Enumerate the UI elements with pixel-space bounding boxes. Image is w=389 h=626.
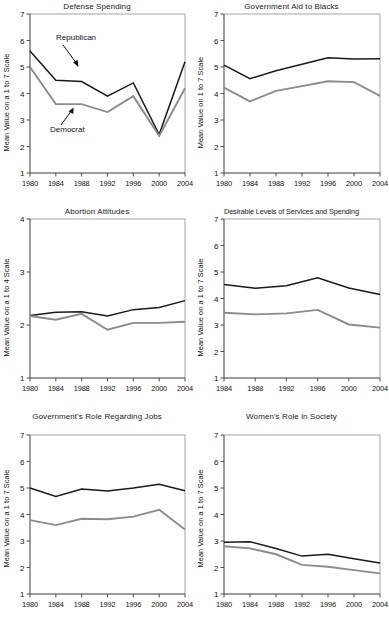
y-tick-label: 2 — [214, 564, 219, 573]
y-tick-label: 4 — [214, 511, 219, 520]
panel-governments-role-regarding-jobs: Government's Role Regarding Jobs Mean Va… — [0, 410, 194, 626]
series-line-republican — [30, 51, 185, 134]
plot-area: 12345671980198419881992199620002004 — [194, 410, 389, 626]
x-tick-label: 1988 — [74, 179, 90, 188]
y-tick-label: 4 — [20, 511, 25, 520]
y-tick-label: 1 — [20, 374, 25, 383]
series-line-democrat — [30, 301, 185, 316]
panel-abortion-attitudes: Abortion Attitudes Mean Value on a 1 to … — [0, 205, 194, 410]
panel-desirable-levels-of-services-and-spending: Desirable Levels of Services and Spendin… — [194, 205, 389, 410]
y-tick-label: 3 — [214, 116, 219, 125]
y-tick-label: 6 — [214, 37, 219, 46]
x-tick-label: 1988 — [268, 600, 284, 609]
plot-frame — [30, 14, 185, 173]
y-tick-label: 5 — [20, 484, 25, 493]
y-tick-label: 4 — [20, 215, 25, 224]
x-tick-label: 1992 — [294, 600, 310, 609]
y-tick-label: 2 — [20, 564, 25, 573]
y-tick-label: 2 — [20, 321, 25, 330]
x-tick-label: 1988 — [247, 384, 263, 393]
y-tick-label: 2 — [20, 143, 25, 152]
x-tick-label: 1988 — [268, 179, 284, 188]
y-tick-label: 7 — [20, 431, 25, 440]
y-tick-label: 2 — [214, 143, 219, 152]
y-tick-label: 7 — [20, 10, 25, 19]
plot-area: 12341980198419881992199620002004 — [0, 205, 194, 410]
y-tick-label: 1 — [214, 374, 219, 383]
x-tick-label: 1992 — [278, 384, 294, 393]
x-tick-label: 1984 — [216, 384, 232, 393]
y-tick-label: 7 — [214, 215, 219, 224]
y-tick-label: 6 — [214, 242, 219, 251]
annotation-democrat-label: Democrat — [50, 125, 85, 134]
y-tick-label: 3 — [20, 537, 25, 546]
y-tick-label: 3 — [214, 321, 219, 330]
y-tick-label: 1 — [214, 169, 219, 178]
y-tick-label: 1 — [214, 590, 219, 599]
y-tick-label: 2 — [214, 348, 219, 357]
x-tick-label: 1992 — [100, 600, 116, 609]
plot-area: 12345671980198419881992199620002004Repub… — [0, 0, 194, 205]
y-tick-label: 4 — [20, 90, 25, 99]
chart-figure: Defense Spending Mean Value on a 1 to 7 … — [0, 0, 389, 626]
x-tick-label: 1996 — [125, 600, 141, 609]
x-tick-label: 2004 — [177, 179, 193, 188]
panel-womens-role-in-society: Women's Role in Society Mean Value on a … — [194, 410, 389, 626]
y-tick-label: 6 — [20, 458, 25, 467]
x-tick-label: 1980 — [216, 179, 232, 188]
x-tick-label: 1988 — [74, 384, 90, 393]
series-line-republican — [224, 310, 380, 328]
plot-frame — [224, 14, 380, 173]
series-line-democrat — [30, 484, 185, 496]
y-tick-label: 5 — [214, 268, 219, 277]
y-tick-label: 1 — [20, 169, 25, 178]
plot-frame — [224, 219, 380, 378]
plot-area: 12345671980198419881992199620002004 — [194, 0, 389, 205]
y-tick-label: 3 — [20, 268, 25, 277]
y-tick-label: 6 — [214, 458, 219, 467]
series-line-republican — [224, 81, 380, 101]
x-tick-label: 2000 — [346, 600, 362, 609]
y-tick-label: 6 — [20, 37, 25, 46]
x-tick-label: 1996 — [125, 179, 141, 188]
annotation-republican-arrowhead — [73, 60, 78, 67]
series-line-democrat — [224, 58, 380, 79]
y-tick-label: 5 — [20, 63, 25, 72]
x-tick-label: 2004 — [177, 384, 193, 393]
x-tick-label: 1996 — [320, 179, 336, 188]
plot-frame — [30, 435, 185, 594]
series-line-republican — [224, 542, 380, 563]
y-tick-label: 5 — [214, 484, 219, 493]
plot-axes — [30, 14, 185, 173]
plot-axes — [224, 219, 380, 378]
x-tick-label: 1980 — [22, 600, 38, 609]
x-tick-label: 1996 — [320, 600, 336, 609]
x-tick-label: 1988 — [74, 600, 90, 609]
annotation-democrat-arrow — [61, 110, 72, 125]
y-tick-label: 7 — [214, 10, 219, 19]
y-tick-label: 3 — [214, 537, 219, 546]
x-tick-label: 1984 — [242, 179, 258, 188]
plot-axes — [30, 219, 185, 378]
plot-axes — [224, 14, 380, 173]
x-tick-label: 2004 — [372, 600, 388, 609]
x-tick-label: 2000 — [346, 179, 362, 188]
annotation-republican-arrow — [63, 45, 77, 64]
x-tick-label: 2000 — [151, 179, 167, 188]
x-tick-label: 1996 — [125, 384, 141, 393]
x-tick-label: 2000 — [341, 384, 357, 393]
x-tick-label: 1980 — [216, 600, 232, 609]
x-tick-label: 2000 — [151, 600, 167, 609]
x-tick-label: 2004 — [372, 384, 388, 393]
y-tick-label: 5 — [214, 63, 219, 72]
x-tick-label: 2004 — [177, 600, 193, 609]
y-tick-label: 7 — [214, 431, 219, 440]
plot-area: 12345671980198419881992199620002004 — [0, 410, 194, 626]
x-tick-label: 1984 — [48, 179, 64, 188]
y-tick-label: 3 — [20, 116, 25, 125]
x-tick-label: 2000 — [151, 384, 167, 393]
panel-defense-spending: Defense Spending Mean Value on a 1 to 7 … — [0, 0, 194, 205]
x-tick-label: 1992 — [100, 179, 116, 188]
y-tick-label: 4 — [214, 295, 219, 304]
x-tick-label: 1984 — [48, 384, 64, 393]
